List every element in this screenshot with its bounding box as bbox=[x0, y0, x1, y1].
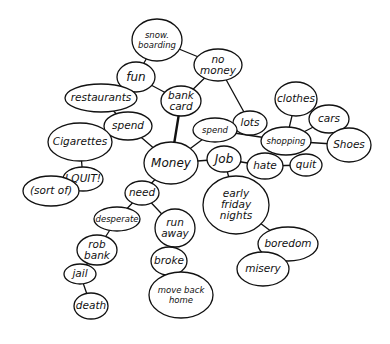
node-label: money bbox=[200, 64, 237, 76]
mind-map-canvas: Moneybankcardfunsnow.boardingnomoneylots… bbox=[0, 0, 390, 344]
node-label: (sort of) bbox=[30, 184, 72, 196]
node-death: death bbox=[74, 293, 108, 319]
node-label: shopping bbox=[267, 136, 307, 146]
node-label: lots bbox=[241, 116, 260, 128]
mind-map-nodes: Moneybankcardfunsnow.boardingnomoneylots… bbox=[23, 19, 371, 319]
node-cigarettes: Cigarettes bbox=[48, 123, 112, 161]
node-label: boarding bbox=[138, 40, 176, 50]
node-spend-right: spend bbox=[193, 118, 237, 142]
node-misery: misery bbox=[237, 252, 289, 286]
node-early-friday-nights: earlyfridaynights bbox=[203, 176, 269, 234]
node-no-money: nomoney bbox=[194, 49, 242, 81]
node-label: bank bbox=[84, 249, 111, 261]
node-shopping: shopping bbox=[261, 127, 311, 155]
node-job: Job bbox=[207, 146, 241, 172]
node-sort-of: (sort of) bbox=[23, 176, 79, 206]
node-run-away: runaway bbox=[155, 209, 195, 247]
node-label: move back bbox=[158, 285, 206, 295]
node-label: Cigarettes bbox=[53, 135, 108, 147]
node-label: broke bbox=[154, 254, 184, 266]
node-label: Job bbox=[213, 152, 234, 166]
node-label: Money bbox=[151, 156, 192, 170]
node-move-back-home: move backhome bbox=[149, 272, 213, 318]
node-label: need bbox=[129, 186, 156, 198]
node-label: hate bbox=[253, 159, 277, 171]
node-label: jail bbox=[70, 267, 87, 279]
node-snowboarding: snow.boarding bbox=[132, 19, 182, 61]
node-rob-bank: robbank bbox=[77, 235, 117, 265]
node-spend-left: spend bbox=[104, 112, 152, 140]
node-label: nights bbox=[220, 209, 253, 221]
node-label: misery bbox=[245, 262, 281, 274]
node-label: clothes bbox=[277, 92, 315, 104]
node-restaurants: restaurants bbox=[65, 84, 137, 112]
node-label: quit bbox=[296, 158, 317, 170]
node-label: boredom bbox=[264, 237, 311, 249]
node-label: restaurants bbox=[71, 91, 132, 103]
node-shoes: Shoes bbox=[327, 128, 371, 162]
node-hate: hate bbox=[247, 153, 283, 179]
node-money: Money bbox=[144, 142, 198, 184]
node-label: Shoes bbox=[333, 138, 365, 150]
node-label: snow. bbox=[145, 30, 169, 40]
node-label: home bbox=[169, 295, 193, 305]
node-label: spend bbox=[112, 119, 144, 131]
node-jail: jail bbox=[64, 264, 96, 284]
node-need: need bbox=[125, 181, 159, 205]
node-broke: broke bbox=[151, 247, 187, 275]
node-bank-card: bankcard bbox=[161, 86, 201, 116]
node-desperate: desperate bbox=[94, 207, 140, 231]
node-clothes: clothes bbox=[275, 82, 317, 116]
node-label: fun bbox=[126, 70, 145, 84]
node-label: card bbox=[169, 100, 193, 112]
node-label: spend bbox=[202, 125, 228, 135]
node-label: desperate bbox=[96, 214, 139, 224]
node-label: cars bbox=[318, 112, 341, 124]
node-lots: lots bbox=[233, 111, 267, 135]
node-quit: quit bbox=[290, 154, 322, 176]
node-label: death bbox=[76, 299, 106, 311]
node-label: away bbox=[161, 227, 189, 239]
